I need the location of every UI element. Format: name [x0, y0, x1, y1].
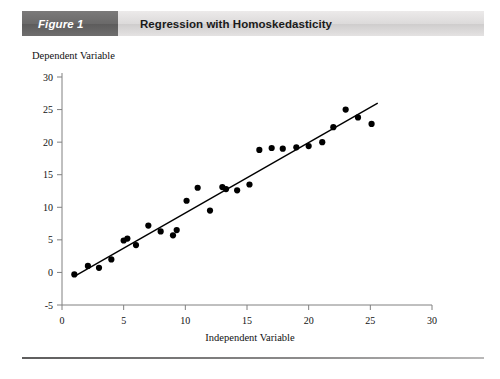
y-tick-label: 30 — [43, 72, 53, 83]
x-tick-label: 5 — [121, 315, 126, 326]
data-point — [343, 106, 349, 112]
y-tick-label: -5 — [45, 300, 53, 311]
y-tick-label: 0 — [48, 267, 53, 278]
chart-area: Dependent Variable Independent Variable … — [0, 36, 500, 346]
data-point — [183, 198, 189, 204]
figure-header: Figure 1 Regression with Homoskedasticit… — [22, 11, 484, 36]
data-point — [319, 139, 325, 145]
data-point — [368, 121, 374, 127]
x-tick-label: 0 — [60, 315, 65, 326]
x-tick-label: 25 — [365, 315, 375, 326]
data-point — [195, 185, 201, 191]
scatter-plot: -5051015202530051015202530 — [0, 36, 500, 346]
data-point — [145, 222, 151, 228]
regression-line — [74, 103, 377, 276]
data-point — [256, 147, 262, 153]
y-tick-label: 25 — [43, 104, 53, 115]
data-point — [269, 145, 275, 151]
x-tick-label: 10 — [180, 315, 190, 326]
data-point — [96, 265, 102, 271]
y-tick-label: 5 — [48, 234, 53, 245]
y-tick-label: 10 — [43, 202, 53, 213]
data-point — [158, 228, 164, 234]
data-point — [234, 187, 240, 193]
data-point — [174, 227, 180, 233]
data-point — [246, 181, 252, 187]
figure-title: Regression with Homoskedasticity — [118, 11, 484, 36]
figure-footer-rule — [22, 357, 484, 359]
y-tick-label: 20 — [43, 137, 53, 148]
x-tick-label: 20 — [304, 315, 314, 326]
figure-panel: Figure 1 Regression with Homoskedasticit… — [0, 0, 500, 379]
data-point — [124, 235, 130, 241]
figure-number-badge: Figure 1 — [22, 11, 118, 36]
data-point — [280, 146, 286, 152]
x-tick-label: 15 — [242, 315, 252, 326]
data-point — [207, 207, 213, 213]
data-point — [170, 232, 176, 238]
x-tick-label: 30 — [427, 315, 437, 326]
y-tick-label: 15 — [43, 169, 53, 180]
